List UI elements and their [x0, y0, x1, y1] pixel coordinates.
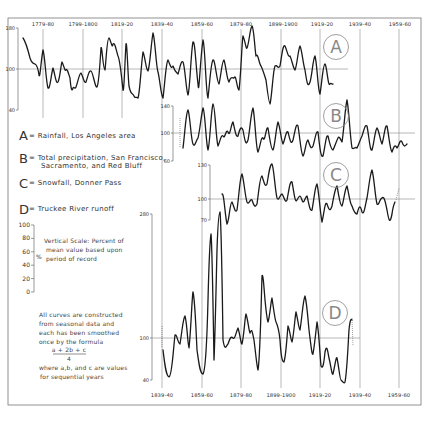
- curve-c: [222, 164, 395, 224]
- note-line-3: each has been smoothed: [39, 329, 119, 336]
- series-c: 130 100 70 C: [197, 162, 415, 224]
- bottom-tick-label: 1879-80: [230, 392, 252, 398]
- legend-text-c: = Snowfall, Donner Pass: [29, 179, 121, 187]
- top-tick-label: 1899-1900: [268, 21, 297, 27]
- top-tick-label: 1939-40: [349, 21, 371, 27]
- top-tick-label: 1879-80: [230, 21, 252, 27]
- axis-c-mid: 100: [197, 196, 207, 202]
- bottom-tick-label: 1839-40: [151, 392, 173, 398]
- label-d: D: [328, 303, 341, 323]
- legend-item-d: D = Truckee River runoff: [19, 202, 114, 217]
- series-a: 180 100 40 A: [5, 25, 348, 113]
- bottom-tick-label: 1939-40: [349, 392, 371, 398]
- legend-item-b: B = Total precipitation, San Francisco, …: [19, 151, 166, 170]
- scale-tick: 40: [22, 261, 30, 268]
- top-tick-label: 1919-20: [311, 21, 333, 27]
- note-line-1: All curves are constructed: [39, 311, 123, 318]
- legend-text-a: = Rainfall, Los Angeles area: [29, 132, 136, 140]
- axis-d: [150, 214, 152, 380]
- axis-c-bot: 70: [201, 217, 207, 223]
- series-d: 280 100 40 D: [139, 211, 360, 383]
- top-tick-label: 1859-60: [191, 21, 213, 27]
- bottom-year-labels: 1839-40 1859-60 1879-80 1899-1900 1919-2…: [151, 392, 410, 398]
- curve-a: [23, 26, 333, 104]
- bottom-tick-label: 1899-1900: [266, 392, 295, 398]
- legend-letter-b: B: [19, 151, 28, 166]
- hydroclimate-chart: 1779-80 1799-1800 1819-20 1839-40 1859-6…: [0, 0, 434, 422]
- bottom-tick-label: 1919-20: [309, 392, 331, 398]
- legend-letter-a: A: [19, 128, 28, 143]
- legend-item-a: A = Rainfall, Los Angeles area: [19, 128, 136, 143]
- series-b: 140 100 60 B: [160, 100, 415, 164]
- axis-a: [16, 28, 18, 110]
- legend: A = Rainfall, Los Angeles area B = Total…: [19, 128, 166, 217]
- label-b: B: [330, 106, 342, 126]
- legend-letter-d: D: [19, 202, 29, 217]
- axis-a-bot: 40: [9, 107, 15, 113]
- note-line-6: for sequential years: [40, 373, 104, 381]
- axis-c-top: 130: [197, 162, 207, 168]
- legend-text-b: = Total precipitation, San Francisco,: [29, 154, 166, 162]
- axis-b: [171, 106, 173, 161]
- axis-c: [208, 165, 210, 220]
- top-tick-label: 1799-1800: [68, 21, 97, 27]
- label-a: A: [330, 37, 342, 57]
- scale-text-1: Vertical Scale: Percent of: [44, 237, 125, 244]
- note-line-4: once by the formula: [39, 338, 103, 346]
- top-tick-label: 1819-20: [111, 21, 133, 27]
- dotted-end-c: [396, 188, 399, 200]
- top-year-labels: 1779-80 1799-1800 1819-20 1839-40 1859-6…: [32, 21, 411, 27]
- scale-text-2: mean value based upon: [46, 246, 123, 254]
- vertical-scale-key: 100 80 60 40 20 0 % Vertical Scale: Perc…: [19, 221, 125, 295]
- scale-tick: 80: [22, 234, 30, 241]
- top-tick-label: 1959-60: [389, 21, 411, 27]
- axis-b-mid: 100: [160, 130, 170, 136]
- note-line-2: from seasonal data and: [39, 320, 114, 327]
- note-line-5: where a,b, and c are values: [39, 364, 127, 371]
- axis-d-bot: 40: [143, 377, 149, 383]
- legend-item-c: C = Snowfall, Donner Pass: [19, 176, 121, 191]
- axis-a-mid: 100: [5, 66, 15, 72]
- bottom-tick-label: 1859-60: [191, 392, 213, 398]
- legend-text-b2: Sacramento, and Red Bluff: [41, 162, 143, 170]
- legend-text-d: = Truckee River runoff: [29, 205, 114, 213]
- scale-tick: 20: [22, 275, 30, 282]
- axis-a-top: 180: [5, 25, 15, 31]
- axis-d-top: 280: [139, 211, 149, 217]
- formula-denominator: 4: [67, 355, 71, 362]
- top-tick-label: 1779-80: [32, 21, 54, 27]
- scale-text-3: period of record: [46, 255, 97, 263]
- curve-b: [183, 100, 407, 156]
- scale-axis: [31, 225, 34, 292]
- scale-unit: %: [36, 253, 42, 260]
- legend-letter-c: C: [19, 176, 28, 191]
- axis-d-mid: 100: [139, 335, 149, 341]
- bottom-tick-label: 1959-60: [388, 392, 410, 398]
- curve-d: [163, 212, 352, 383]
- scale-tick: 100: [19, 221, 31, 228]
- axis-b-top: 140: [160, 103, 170, 109]
- formula-numerator: a + 2b + c: [52, 346, 86, 353]
- dotted-end-d: [352, 318, 353, 346]
- smoothing-note: All curves are constructed from seasonal…: [39, 311, 127, 381]
- scale-tick: 0: [26, 288, 30, 295]
- scale-tick: 60: [22, 248, 30, 255]
- label-c: C: [330, 165, 342, 185]
- top-tick-label: 1839-40: [151, 21, 173, 27]
